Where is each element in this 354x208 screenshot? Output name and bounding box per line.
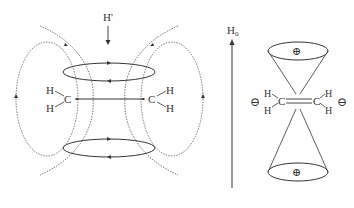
cone-edge <box>300 109 328 172</box>
cone-edge <box>268 109 296 172</box>
carbon-left: C <box>278 95 285 107</box>
arrow-marker-icon <box>150 43 154 46</box>
current-arrow-icon <box>107 79 111 83</box>
current-arrow-icon <box>107 155 111 159</box>
ethylene-anisotropy-diagram: H' C H H C H H H0 ⊕ ⊕ <box>0 0 354 208</box>
hydrogen-left-bottom: H <box>264 105 271 116</box>
right-panel: ⊕ ⊕ C C H H H H ⊖ ⊖ <box>250 42 347 181</box>
current-arrow-icon <box>107 61 111 65</box>
hydrogen-right-bottom: H <box>166 102 174 114</box>
hydrogen-left-top: H <box>46 84 54 96</box>
arrow-down-icon <box>106 40 111 45</box>
arrow-up-icon <box>230 39 235 45</box>
hydrogen-right-bottom: H <box>325 105 332 116</box>
deshielding-sign-left: ⊖ <box>250 95 260 109</box>
carbon-right: C <box>313 95 320 107</box>
ch-bond <box>157 91 166 96</box>
ch-bond <box>55 91 64 96</box>
shielding-sign-bottom: ⊕ <box>292 166 301 178</box>
arrow-marker-icon <box>64 43 68 46</box>
carbon-right: C <box>148 93 155 105</box>
applied-field-label: H' <box>103 11 113 23</box>
ch-bond <box>55 102 64 107</box>
hydrogen-right-top: H <box>166 84 174 96</box>
cone-edge <box>300 51 328 94</box>
hydrogen-right-top: H <box>325 88 332 99</box>
deshielding-sign-right: ⊖ <box>337 95 347 109</box>
external-field-axis: H0 <box>227 24 239 188</box>
ch-bond <box>157 102 166 107</box>
current-arrow-icon <box>107 137 111 141</box>
hydrogen-left-top: H <box>264 88 271 99</box>
left-panel: H' C H H C H H <box>14 11 205 175</box>
arrow-marker-icon <box>14 94 18 98</box>
arrow-marker-icon <box>201 94 205 98</box>
cone-edge <box>268 51 296 94</box>
shielding-sign-top: ⊕ <box>292 45 301 57</box>
external-field-label: H0 <box>227 24 239 38</box>
hydrogen-left-bottom: H <box>46 102 54 114</box>
pi-current-loop-top <box>63 63 155 81</box>
carbon-left: C <box>64 93 71 105</box>
